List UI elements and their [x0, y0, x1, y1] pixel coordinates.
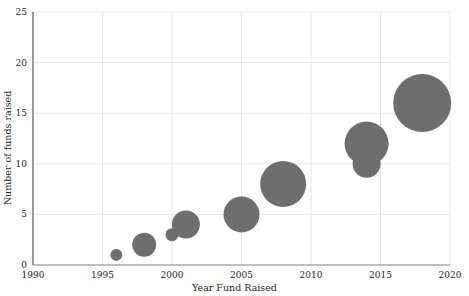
y-tick-label: 25 — [0, 7, 27, 17]
bubble-chart: 0510152025 1990199520002005201020152020 … — [0, 0, 469, 296]
bubble-marker — [172, 211, 200, 239]
bubble-series — [110, 74, 451, 261]
x-tick-label: 2020 — [439, 270, 462, 280]
x-tick-label: 2010 — [300, 270, 323, 280]
x-axis-title: Year Fund Raised — [0, 282, 469, 293]
bubble-marker — [224, 196, 260, 232]
plot-canvas — [0, 0, 469, 296]
x-tick-label: 1995 — [91, 270, 114, 280]
y-axis-title: Number of funds raised — [2, 28, 13, 268]
bubble-marker — [260, 161, 306, 207]
bubble-marker — [110, 249, 122, 261]
bubble-marker — [345, 122, 389, 166]
bubble-marker — [393, 74, 451, 132]
x-tick-label: 1990 — [22, 270, 45, 280]
x-tick-label: 2015 — [369, 270, 392, 280]
x-tick-label: 2000 — [161, 270, 184, 280]
x-tick-label: 2005 — [230, 270, 253, 280]
bubble-marker — [132, 233, 156, 257]
